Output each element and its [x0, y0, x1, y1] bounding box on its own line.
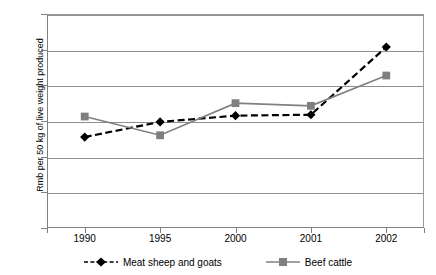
gridline	[48, 193, 423, 194]
gridline	[48, 15, 423, 16]
legend-marker-diamond-icon	[84, 256, 118, 268]
legend-item-beef-cattle[interactable]: Beef cattle	[266, 256, 352, 268]
legend-label-meat-sheep-and-goats: Meat sheep and goats	[123, 257, 222, 268]
x-tick-label: 1995	[130, 233, 190, 244]
x-tick-label: 2002	[356, 233, 416, 244]
plot-area	[47, 14, 424, 228]
x-tick-mark	[47, 228, 48, 233]
x-tick-label: 2000	[206, 233, 266, 244]
legend-marker-square-icon	[266, 256, 300, 268]
legend-item-meat-sheep-and-goats[interactable]: Meat sheep and goats	[84, 256, 222, 268]
x-tick-label: 2001	[281, 233, 341, 244]
gridline	[48, 51, 423, 52]
gridline	[48, 122, 423, 123]
y-axis-title: Rmb per 50 kg of live weight produced	[35, 10, 45, 220]
legend-label-beef-cattle: Beef cattle	[305, 257, 352, 268]
chart-container: Rmb per 50 kg of live weight produced 02…	[0, 0, 436, 275]
gridline	[48, 86, 423, 87]
x-tick-mark	[424, 228, 425, 233]
gridline	[48, 158, 423, 159]
x-tick-label: 1990	[55, 233, 115, 244]
chart-legend: Meat sheep and goats Beef cattle	[0, 252, 436, 272]
